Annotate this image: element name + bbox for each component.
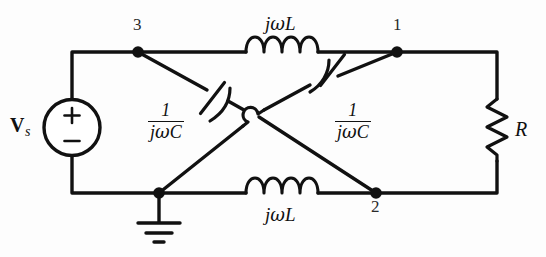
inductor-top-label: jωL	[265, 14, 296, 33]
wire-resistor-to-node2	[376, 161, 497, 193]
inductor-bottom-label-l: L	[285, 204, 296, 225]
inductor-bottom-coils	[246, 178, 318, 193]
node-dot-3	[132, 46, 144, 58]
voltage-source-label: Vs	[10, 115, 30, 139]
inductor-top-coils	[246, 37, 318, 52]
capacitor-right-fraction: 1 jωC	[335, 101, 371, 142]
capacitor-right-numerator: 1	[335, 101, 371, 121]
node-label-2: 2	[371, 198, 380, 215]
wire-ground-to-source	[72, 155, 159, 193]
capacitor-left-denominator: jωC	[148, 122, 184, 142]
capacitor-left-denominator-omega: ω	[155, 121, 170, 142]
inductor-bottom-label: jωL	[265, 205, 296, 224]
capacitor-right-denominator-omega: ω	[342, 121, 357, 142]
node-label-1: 1	[393, 16, 402, 33]
voltage-source-label-v: V	[10, 114, 24, 136]
wire-capleft-to-crossing	[228, 101, 244, 110]
resistor-zigzag	[487, 99, 507, 161]
voltage-source-label-subscript: s	[25, 124, 30, 139]
ground-symbol	[138, 193, 180, 242]
figure-canvas: 3 1 2 Vs jωL jωL 1 jωC 1 jωC R	[0, 0, 546, 257]
inductor-bottom-label-omega: ω	[270, 204, 285, 225]
wire-capright-to-node1	[338, 52, 397, 76]
capacitor-right-symbol	[310, 55, 345, 93]
capacitor-right-label: 1 jωC	[335, 101, 371, 142]
node-dot-ground	[153, 187, 165, 199]
node-label-3: 3	[133, 16, 142, 33]
wire-node3-to-capleft	[138, 52, 207, 90]
capacitor-left-numerator: 1	[148, 101, 184, 121]
wire-source-to-node3	[72, 52, 138, 100]
wire-node1-to-resistor	[397, 52, 497, 99]
capacitor-left-denominator-c: C	[170, 122, 182, 142]
inductor-top-label-omega: ω	[270, 13, 285, 34]
resistor-label: R	[515, 119, 527, 139]
node-dot-1	[391, 46, 403, 58]
capacitor-left-label: 1 jωC	[148, 101, 184, 142]
capacitor-right-denominator-c: C	[357, 122, 369, 142]
capacitor-left-fraction: 1 jωC	[148, 101, 184, 142]
wire-crossing-to-capright	[264, 85, 310, 110]
inductor-top-label-l: L	[285, 13, 296, 34]
capacitor-right-denominator: jωC	[335, 122, 371, 142]
